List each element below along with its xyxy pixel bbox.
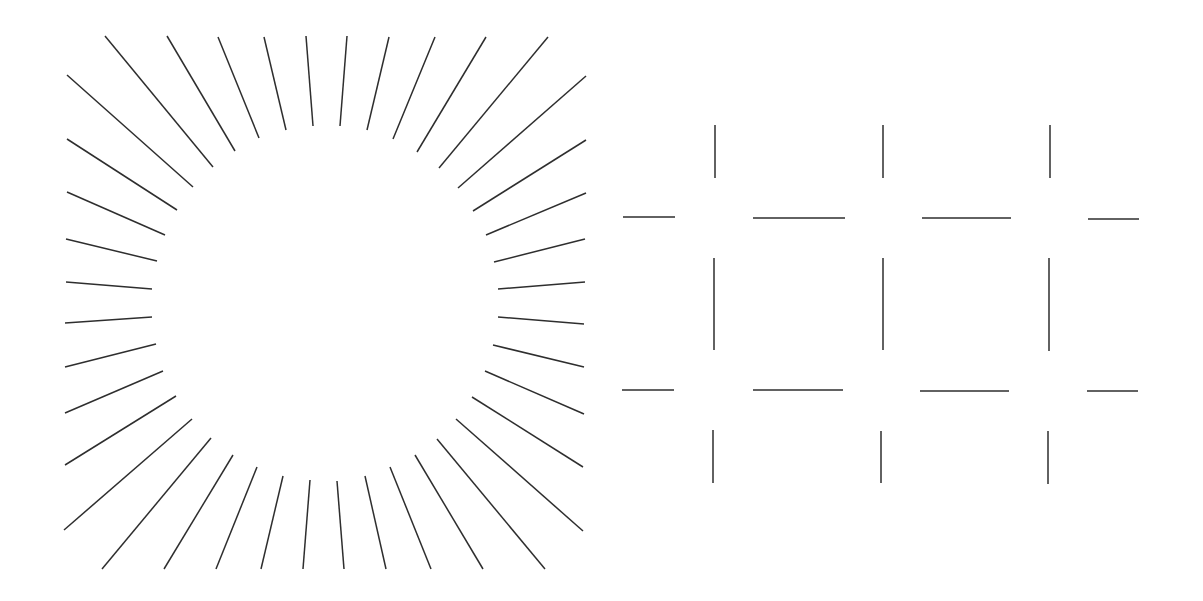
illusory-circle-segment [102,438,211,569]
illusory-circle-segment [458,76,586,188]
illusory-circle-segment [65,371,163,413]
illusory-circle-segment [485,371,584,414]
illusory-circle-segment [393,37,435,139]
illusory-circle-segment [66,239,157,261]
illusory-circle-segment [306,36,313,126]
illusory-circle-segment [340,36,347,126]
illusory-circle-segment [390,467,431,569]
illusory-circle-segment [494,239,585,262]
illusory-circle-segment [472,397,583,467]
illusory-circle-segment [337,481,344,569]
illusory-circle-segment [264,37,286,130]
illusory-circle-segment [64,419,192,530]
illusion-diagram [0,0,1203,601]
illusory-circle-segment [105,36,213,167]
illusory-circle-segment [303,480,310,569]
illusory-circle-segment [216,467,257,569]
illusory-circle-segment [498,317,584,324]
illusory-circle-segment [65,317,152,323]
illusory-circle-figure [64,36,586,569]
illusory-grid-figure [622,125,1139,484]
illusory-circle-segment [67,192,165,235]
illusory-circle-segment [437,439,545,569]
illusory-circle-segment [486,193,586,235]
illusory-circle-segment [439,37,548,168]
illusory-circle-segment [261,476,283,569]
illusory-circle-segment [218,37,259,138]
illusory-circle-segment [415,455,483,569]
illusory-circle-segment [367,37,389,130]
illusory-circle-segment [67,75,193,187]
illusory-circle-segment [65,344,156,367]
illusory-circle-segment [365,476,386,569]
illusory-circle-segment [456,419,583,531]
illusory-circle-segment [66,282,152,289]
illusory-circle-segment [498,282,585,289]
illusory-circle-segment [493,345,584,367]
